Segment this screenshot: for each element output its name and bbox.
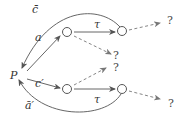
transition-diagram: P c̄ a τ c′ τ ā′ ? ? ? ?: [0, 0, 185, 121]
label-c-bar: c̄: [32, 3, 39, 16]
label-tau-top: τ: [94, 18, 101, 31]
unknown-bottom-right: ?: [168, 97, 174, 110]
unknown-top-right: ?: [167, 14, 173, 27]
edge-dashed-n3: [74, 68, 106, 85]
node-top-right: [118, 27, 127, 36]
edge-dashed-n1: [74, 36, 111, 54]
label-c-prime: c′: [35, 77, 44, 90]
node-bottom-right: [118, 85, 127, 94]
edge-dashed-n4: [129, 91, 160, 99]
unknown-bottom-mid: ?: [113, 61, 119, 74]
edge-a: [27, 36, 60, 71]
label-a-prime-bar: ā′: [25, 99, 35, 112]
start-node-label: P: [9, 69, 18, 82]
node-bottom-left: [63, 85, 72, 94]
label-tau-bottom: τ: [94, 93, 101, 106]
label-a: a: [35, 31, 42, 44]
edge-dashed-n2: [129, 23, 160, 30]
node-top-left: [63, 28, 72, 37]
